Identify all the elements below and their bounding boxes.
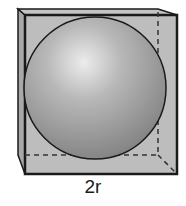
dimension-label: 2r	[0, 176, 186, 198]
sphere	[24, 17, 166, 159]
